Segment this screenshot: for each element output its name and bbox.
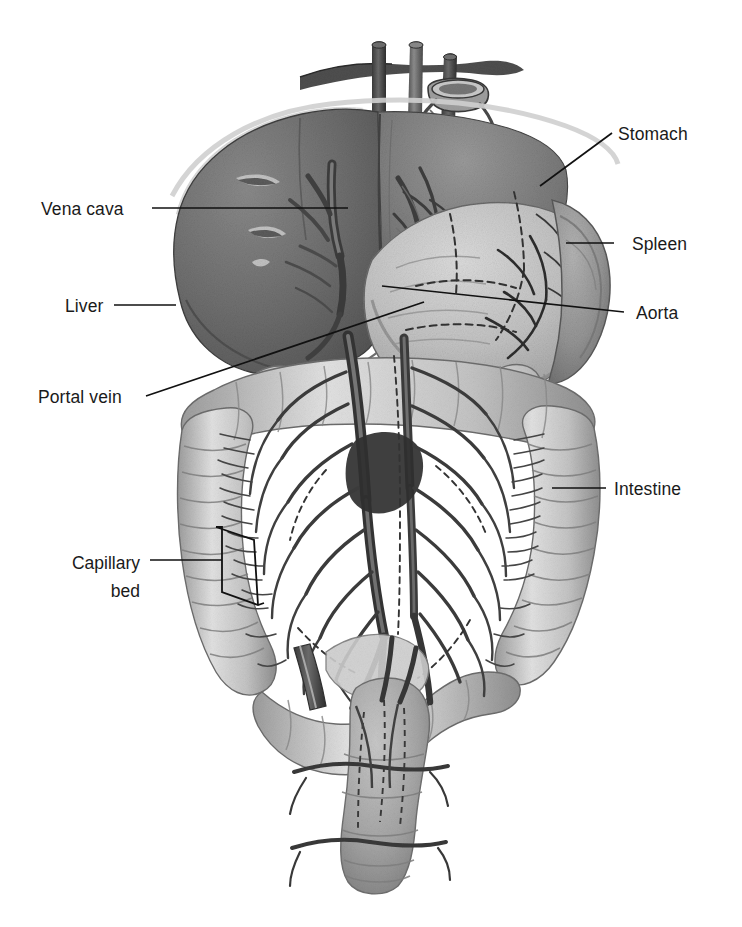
- label-capillary-bed-line2: bed: [0, 577, 140, 605]
- label-stomach: Stomach: [618, 122, 688, 147]
- iliac-vessel-stumps: [294, 644, 326, 710]
- label-intestine: Intestine: [614, 477, 681, 502]
- rectum-organ: [290, 678, 450, 894]
- label-aorta: Aorta: [636, 301, 678, 326]
- label-liver: Liver: [65, 294, 103, 319]
- label-spleen: Spleen: [632, 232, 687, 257]
- label-capillary-bed-line1: Capillary: [0, 549, 140, 577]
- label-vena-cava: Vena cava: [41, 197, 124, 222]
- anatomy-figure: Vena cava Liver Portal vein Capillary be…: [0, 0, 742, 927]
- label-portal-vein: Portal vein: [38, 385, 122, 410]
